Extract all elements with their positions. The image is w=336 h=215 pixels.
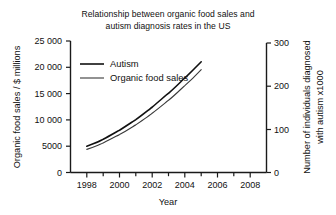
chart-container: Relationship between organic food sales …	[0, 0, 336, 215]
left-tick-label-15000: 15 000	[34, 89, 62, 99]
x-tick-label-2008: 2008	[240, 180, 260, 190]
left-tick-label-20000: 20 000	[34, 62, 62, 72]
right-tick-label-100: 100	[274, 125, 289, 135]
legend-label-autism: Autism	[110, 58, 139, 69]
x-axis-ticks	[87, 173, 250, 178]
right-tick-label-300: 300	[274, 38, 289, 48]
x-tick-label-2000: 2000	[109, 180, 129, 190]
left-tick-label-25000: 25 000	[34, 36, 62, 46]
left-tick-label-0: 0	[57, 168, 62, 178]
left-tick-label-5000: 5000	[42, 141, 62, 151]
x-tick-label-2006: 2006	[207, 180, 227, 190]
x-tick-label-2004: 2004	[175, 180, 195, 190]
x-tick-label-2002: 2002	[142, 180, 162, 190]
right-tick-label-0: 0	[274, 168, 279, 178]
left-tick-label-10000: 10 000	[34, 115, 62, 125]
x-tick-label-1998: 1998	[77, 180, 97, 190]
chart-legend: Autism Organic food sales	[80, 58, 188, 83]
right-tick-label-200: 200	[274, 81, 289, 91]
legend-label-organic-food-sales: Organic food sales	[110, 72, 188, 83]
y2-axis-title-line-2: with autism x1000	[315, 70, 325, 145]
plot-area: 0 5000 10 000 15 000 20 000 25 000 0 100…	[0, 0, 336, 215]
y-axis-title: Organic food sales / $ millions	[12, 45, 22, 168]
y2-axis-title-line-1: Number of individuals diagnosed	[302, 40, 312, 173]
x-axis-title: Year	[159, 197, 178, 207]
